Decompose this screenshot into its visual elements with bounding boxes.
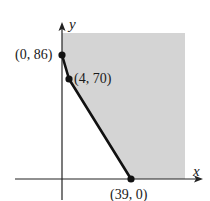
vertex-point-39-0 [127,175,134,182]
vertex-point-4-70 [65,75,72,82]
y-axis-label: y [67,16,76,32]
x-axis-label: x [192,163,200,179]
graph: y x (0, 86) (4, 70) (39, 0) [0,0,210,201]
point-label-0-86: (0, 86) [15,47,53,63]
vertex-point-0-86 [58,51,65,58]
point-label-4-70: (4, 70) [74,71,112,87]
shaded-feasible-region [62,33,185,179]
point-label-39-0: (39, 0) [110,187,148,201]
